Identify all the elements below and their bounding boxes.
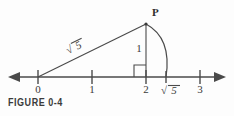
label-vertical-leg: 1 <box>136 42 142 54</box>
figure-container: P 0 1 2 3 √ 5 1 √ 5 FIGURE 0-4 <box>0 0 234 116</box>
label-hypotenuse-radicand: 5 <box>73 38 84 51</box>
tick-label-1: 1 <box>89 83 95 95</box>
label-hypotenuse: √ 5 <box>64 37 86 56</box>
label-hypotenuse-radical: √ <box>64 42 76 56</box>
right-angle-marker <box>134 65 146 77</box>
tick-label-3: 3 <box>197 83 203 95</box>
tick-label-sqrt5: √ 5 <box>161 84 180 96</box>
compass-arc <box>146 24 167 77</box>
tick-label-2: 2 <box>143 83 149 95</box>
figure-caption: FIGURE 0-4 <box>8 97 63 108</box>
tick-label-0: 0 <box>35 83 41 95</box>
tick-label-sqrt5-radical: √ <box>161 84 168 96</box>
tick-label-sqrt5-radicand: 5 <box>171 84 177 96</box>
label-point-p: P <box>152 6 159 18</box>
triangle-hypotenuse <box>38 24 146 77</box>
arrow-right-icon <box>214 72 226 82</box>
arrow-left-icon <box>8 72 20 82</box>
point-p-marker <box>144 22 147 25</box>
